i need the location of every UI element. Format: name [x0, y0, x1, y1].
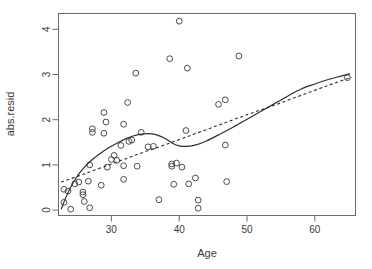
x-axis-ticks: 30405060: [106, 216, 321, 235]
x-axis-title: Age: [197, 247, 217, 259]
x-tick-label: 40: [174, 224, 186, 235]
x-tick-label: 60: [309, 224, 321, 235]
data-point: [101, 110, 107, 116]
data-point: [81, 199, 87, 205]
data-point: [171, 181, 177, 187]
data-point: [193, 175, 199, 181]
data-point: [118, 143, 124, 149]
data-point: [183, 128, 189, 134]
data-point: [121, 121, 127, 127]
x-tick-label: 50: [241, 224, 253, 235]
data-point: [222, 97, 228, 103]
y-tick-label: 2: [41, 116, 52, 122]
data-point: [167, 56, 173, 62]
y-tick-label: 4: [41, 26, 52, 32]
data-point: [179, 164, 185, 170]
data-point: [101, 130, 107, 136]
plot-canvas: 01234 30405060 Age abs.resid: [0, 0, 372, 269]
data-point: [85, 178, 91, 184]
data-point: [98, 182, 104, 188]
data-point: [236, 53, 242, 59]
data-point: [184, 65, 190, 71]
y-tick-label: 1: [41, 162, 52, 168]
y-tick-label: 3: [41, 71, 52, 77]
data-point: [121, 176, 127, 182]
loess-smooth-curve: [61, 74, 350, 210]
data-point: [87, 162, 93, 168]
data-point: [156, 197, 162, 203]
data-point: [195, 205, 201, 211]
data-point: [103, 119, 109, 125]
data-point: [195, 197, 201, 203]
data-point: [68, 206, 74, 212]
data-point: [216, 101, 222, 107]
plot-frame: [59, 14, 356, 216]
data-points: [61, 18, 350, 212]
data-point: [121, 163, 127, 169]
data-point: [90, 129, 96, 135]
y-axis-title: abs.resid: [4, 92, 16, 137]
data-point: [224, 179, 230, 185]
data-point: [344, 75, 350, 81]
data-point: [125, 100, 131, 106]
data-point: [176, 18, 182, 24]
scatter-plot-figure: 01234 30405060 Age abs.resid: [0, 0, 372, 269]
data-point: [186, 181, 192, 187]
data-point: [222, 142, 228, 148]
y-tick-label: 0: [41, 207, 52, 213]
data-point: [134, 163, 140, 169]
x-tick-label: 30: [106, 224, 118, 235]
linear-fit-curve: [61, 77, 351, 182]
data-point: [133, 70, 139, 76]
data-point: [87, 205, 93, 211]
data-point: [145, 144, 151, 150]
y-axis-ticks: 01234: [41, 26, 59, 213]
